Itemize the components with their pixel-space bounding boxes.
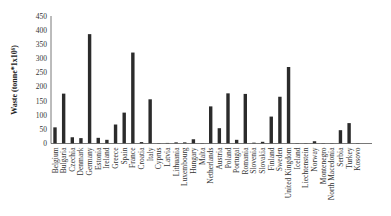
bar-chart: Waste (tonne*1x10⁶) 05010015020025030035… [0,0,391,216]
bar-spain [123,113,126,144]
bar-netherlands [209,106,212,143]
x-tick-label: Spain [120,147,129,164]
bar-italy [148,99,151,143]
x-tick-label: North Macedonia [327,147,336,200]
x-tick-label: Austria [215,147,224,170]
x-tick-label: Czechia [68,147,77,172]
x-tick-label: Ireland [102,147,111,168]
bar-france [131,53,134,144]
x-tick-label: Liechtenstein [301,147,310,188]
bar-belgium [53,127,56,143]
bar-greece [114,125,117,144]
y-tick-label: 150 [36,97,48,106]
y-tick-label: 100 [36,111,48,120]
bar-finland [270,117,273,144]
x-tick-label: Sweden [275,147,284,171]
x-tick-label: Romania [241,147,250,175]
bar-serbia [339,130,342,143]
y-tick-label: 450 [36,12,48,21]
x-tick-label: Poland [224,147,233,168]
y-axis-title: Waste (tonne*1x10⁶) [10,45,19,115]
bar-estonia [97,138,100,144]
x-tick-label: Luxembourg [180,147,189,186]
x-tick-label: Finland [267,147,276,170]
x-tick-label: Turkey [345,147,354,169]
x-tick-label: France [128,147,137,168]
y-tick-label: 350 [36,40,48,49]
bar-austria [218,128,221,143]
y-tick-label: 0 [43,139,47,148]
bar-portugal [235,140,238,144]
x-tick-label: Germany [85,147,94,175]
y-tick-label: 400 [36,26,48,35]
y-tick-label: 250 [36,68,48,77]
x-tick-label: United Kingdom [284,147,293,198]
x-tick-label: Kosovo [353,147,362,171]
x-tick-label: Cyprus [154,147,163,169]
x-tick-label: Portugal [232,148,241,173]
x-tick-label: Slovakia [258,147,267,174]
x-tick-label: Iceland [293,147,302,169]
y-tick-label: 50 [40,125,48,134]
x-tick-label: Montenegro [319,147,328,184]
x-tick-label: Bulgaria [59,147,68,173]
bar-denmark [79,138,82,143]
x-tick-label: Lithuania [172,147,181,176]
bar-germany [88,34,91,143]
x-tick-label: Slovenia [249,147,258,174]
bar-united-kingdom [287,67,290,144]
bar-czechia [71,137,74,143]
bar-hungary [192,139,195,143]
bar-romania [244,94,247,144]
x-tick-label: Croatia [137,147,146,170]
bar-sweden [278,97,281,144]
bar-poland [226,93,229,143]
x-tick-label: Estonia [94,147,103,170]
x-tick-label: Denmark [76,147,85,175]
y-tick-label: 300 [36,54,48,63]
x-tick-label: Malta [198,147,207,165]
bar-bulgaria [62,94,65,144]
x-tick-label: Norway [310,147,319,171]
x-tick-label: Belgium [51,147,60,173]
bar-turkey [347,123,350,143]
y-tick-label: 200 [36,82,48,91]
x-tick-label: Latvia [163,147,172,167]
bar-ireland [105,140,108,144]
x-tick-label: Serbia [336,147,345,167]
x-tick-label: Hungary [189,147,198,173]
x-tick-label: Netherlands [206,147,215,183]
x-tick-label: Italy [146,147,155,161]
x-tick-label: Greece [111,147,120,169]
